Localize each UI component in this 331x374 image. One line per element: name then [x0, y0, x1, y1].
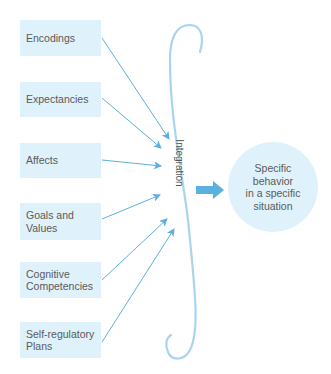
input-box-cognitive-competencies: Cognitive Competencies — [20, 262, 101, 298]
arrow-encodings — [102, 38, 169, 139]
input-label: Affects — [26, 154, 58, 167]
input-label: Expectancies — [26, 93, 88, 106]
output-line: in a specific — [246, 187, 301, 200]
output-line: Specific — [246, 162, 301, 175]
output-line: situation — [246, 200, 301, 213]
input-box-goals-values: Goals and Values — [20, 203, 101, 240]
output-line: behavior — [246, 175, 301, 188]
arrow-goals — [102, 195, 160, 219]
input-label: Self-regulatory Plans — [26, 328, 94, 353]
input-label: Goals and Values — [26, 209, 74, 234]
input-label: Encodings — [26, 32, 75, 45]
input-label: Cognitive Competencies — [26, 268, 93, 293]
arrow-expectancies — [102, 98, 161, 148]
input-box-self-regulatory-plans: Self-regulatory Plans — [20, 322, 101, 358]
output-arrow — [196, 181, 224, 199]
input-box-expectancies: Expectancies — [20, 82, 101, 117]
input-box-encodings: Encodings — [20, 20, 101, 56]
output-circle: Specific behavior in a specific situatio… — [228, 142, 318, 232]
input-box-affects: Affects — [20, 143, 101, 178]
arrow-cognitive — [102, 219, 167, 280]
arrow-affects — [102, 160, 161, 166]
integration-label: Integration — [172, 133, 186, 193]
